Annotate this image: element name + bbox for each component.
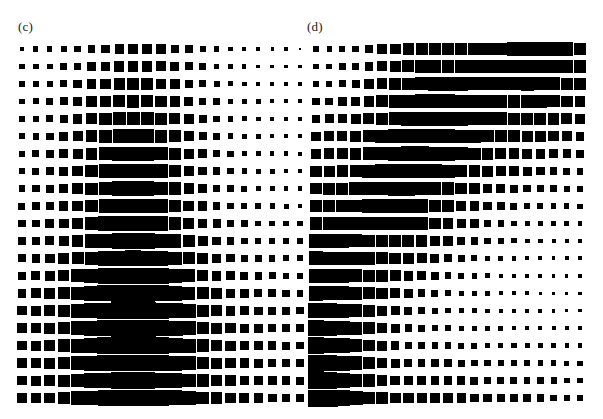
matrix-cell <box>577 395 583 401</box>
matrix-cell <box>212 237 221 246</box>
matrix-cell <box>240 306 249 315</box>
matrix-cell <box>268 376 277 385</box>
matrix-cell <box>455 183 467 195</box>
matrix-cell <box>282 342 290 350</box>
matrix-cell <box>547 77 560 90</box>
panel-d: (d) <box>300 0 603 419</box>
matrix-cell <box>167 303 182 318</box>
matrix-cell <box>71 287 84 300</box>
matrix-cell <box>211 392 223 404</box>
matrix-cell <box>403 393 413 403</box>
matrix-cell <box>154 164 167 177</box>
matrix-cell <box>428 129 442 143</box>
matrix-cell <box>404 376 413 385</box>
matrix-cell <box>113 112 126 125</box>
matrix-cell <box>33 98 39 104</box>
matrix-cell <box>565 292 568 295</box>
matrix-cell <box>140 164 154 178</box>
matrix-cell <box>507 60 520 73</box>
matrix-cell <box>226 254 234 262</box>
matrix-cell <box>140 199 155 214</box>
matrix-cell <box>349 356 362 369</box>
matrix-cell <box>418 307 425 314</box>
matrix-cell <box>428 112 442 126</box>
matrix-cell <box>534 60 547 73</box>
matrix-cell <box>213 167 220 174</box>
matrix-cell <box>256 117 260 121</box>
matrix-cell <box>45 219 54 228</box>
matrix-cell <box>270 99 274 103</box>
matrix-cell <box>575 114 585 124</box>
matrix-cell <box>521 60 534 73</box>
matrix-cell <box>548 113 560 125</box>
matrix-cell <box>167 286 182 301</box>
matrix-cell <box>182 374 196 388</box>
matrix-cell <box>472 308 477 313</box>
matrix-cell <box>167 338 182 353</box>
matrix-cell <box>99 130 112 143</box>
matrix-cell <box>578 343 582 347</box>
matrix-cell <box>99 182 112 195</box>
matrix-cell <box>443 236 452 245</box>
matrix-cell <box>457 219 466 228</box>
matrix-cell <box>154 199 168 213</box>
matrix-cell <box>31 341 41 351</box>
matrix-cell <box>377 61 387 71</box>
matrix-cell <box>534 77 547 90</box>
matrix-cell <box>44 393 55 404</box>
matrix-cell <box>182 321 196 335</box>
matrix-cell <box>32 185 39 192</box>
matrix-cell <box>283 273 290 280</box>
matrix-cell <box>71 374 84 387</box>
matrix-cell <box>496 166 506 176</box>
matrix-cell <box>128 44 137 53</box>
matrix-cell <box>498 360 504 366</box>
matrix-cell <box>497 377 504 384</box>
matrix-cell <box>494 60 507 73</box>
matrix-cell <box>414 112 428 126</box>
matrix-cell <box>113 129 127 143</box>
matrix-cell <box>324 131 334 141</box>
matrix-cell <box>58 392 70 404</box>
matrix-cell <box>100 79 111 90</box>
matrix-cell <box>416 235 427 246</box>
matrix-cell <box>127 78 138 89</box>
matrix-cell <box>429 43 441 55</box>
matrix-cell <box>60 115 68 123</box>
matrix-cell <box>564 378 570 384</box>
matrix-cell <box>577 186 583 192</box>
matrix-cell <box>85 217 98 230</box>
matrix-cell <box>322 269 336 283</box>
matrix-cell <box>441 77 454 90</box>
matrix-cell <box>431 272 439 280</box>
matrix-cell <box>86 96 96 106</box>
matrix-cell <box>199 132 207 140</box>
matrix-cell <box>313 81 319 87</box>
matrix-cell <box>349 200 362 213</box>
matrix-cell <box>484 377 492 385</box>
matrix-cell <box>225 358 235 368</box>
matrix-cell <box>33 64 38 69</box>
matrix-cell <box>61 46 67 52</box>
matrix-cell <box>240 376 250 386</box>
matrix-cell <box>418 342 425 349</box>
matrix-cell <box>59 149 68 158</box>
matrix-cell <box>141 78 152 89</box>
matrix-cell <box>494 112 507 125</box>
matrix-cell <box>416 43 428 55</box>
matrix-cell <box>227 185 234 192</box>
matrix-cell <box>468 148 480 160</box>
matrix-cell <box>550 395 557 402</box>
matrix-cell <box>182 269 195 282</box>
matrix-cell <box>445 308 450 313</box>
matrix-cell <box>283 221 288 226</box>
matrix-cell <box>390 393 401 404</box>
matrix-cell <box>444 359 451 366</box>
matrix-cell <box>455 43 468 56</box>
matrix-cell <box>575 96 586 107</box>
matrix-cell <box>256 169 261 174</box>
matrix-cell <box>239 393 249 403</box>
matrix-cell <box>349 322 362 335</box>
matrix-cell <box>362 252 375 265</box>
matrix-cell <box>44 340 55 351</box>
